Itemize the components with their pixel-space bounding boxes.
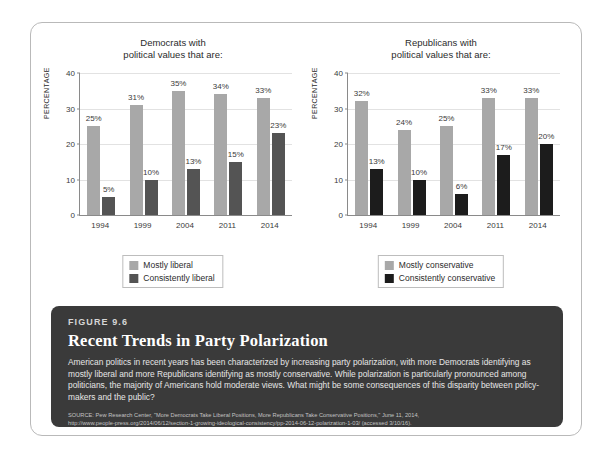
x-axis-tick-label: 2014 [252,221,288,230]
bar-value-label: 23% [270,121,286,130]
plot-wrap-democrats: PERCENTAGE 01020304025%5%31%10%35%13%34%… [41,69,305,249]
charts-area: Democrats with political values that are… [31,23,581,293]
bar-group: 34%15% [210,73,246,215]
x-axis-tick-label: 2014 [520,221,556,230]
x-axis-tick-label: 1999 [125,221,161,230]
bar: 10% [413,180,426,216]
legend-swatch-mostly-liberal [129,261,138,270]
x-axis-labels-republicans: 19941999200420112014 [347,221,559,230]
legend-swatch-mostly-conservative [385,261,394,270]
bar-group: 32%13% [351,73,387,215]
chart-panel-republicans: Republicans with political values that a… [309,33,573,293]
bar: 20% [540,144,553,215]
bar-value-label: 17% [496,143,512,152]
legend-item-consistently-liberal: Consistently liberal [129,273,214,283]
y-axis-tick-label: 10 [66,175,75,184]
chart-title-democrats: Democrats with political values that are… [73,33,273,61]
bar-value-label: 33% [523,86,539,95]
legend-democrats: Mostly liberal Consistently liberal [122,255,223,288]
bar-value-label: 31% [128,93,144,102]
y-axis-tick-label: 30 [66,104,75,113]
x-axis-tick-label: 2004 [167,221,203,230]
bar-group: 33%23% [253,73,289,215]
bar-value-label: 25% [438,114,454,123]
bar-value-label: 15% [228,150,244,159]
y-axis-tick-label: 20 [334,140,343,149]
legend-item-mostly-liberal: Mostly liberal [129,260,214,270]
bar-group: 24%10% [394,73,430,215]
legend-label-consistently-liberal: Consistently liberal [143,273,214,283]
x-axis-labels-democrats: 19941999200420112014 [79,221,291,230]
plot-wrap-republicans: PERCENTAGE 01020304032%13%24%10%25%6%33%… [309,69,573,249]
bar: 35% [172,91,185,215]
bar-group: 25%5% [83,73,119,215]
bar: 25% [87,126,100,215]
bar-value-label: 20% [538,132,554,141]
figure-caption-block: FIGURE 9.6 Recent Trends in Party Polari… [51,306,563,427]
bar-groups: 25%5%31%10%35%13%34%15%33%23% [80,73,292,215]
bar: 33% [257,98,270,215]
bar: 23% [272,133,285,215]
legend-item-consistently-conservative: Consistently conservative [385,273,495,283]
x-axis-tick-label: 2011 [477,221,513,230]
plot-area-democrats: 01020304025%5%31%10%35%13%34%15%33%23% [79,73,292,216]
legend-label-mostly-liberal: Mostly liberal [143,260,193,270]
bar: 15% [229,162,242,215]
x-axis-tick-label: 2011 [209,221,245,230]
bar-value-label: 5% [103,185,115,194]
chart-title-republicans: Republicans with political values that a… [341,33,541,61]
bar: 32% [355,101,368,215]
bar-groups: 32%13%24%10%25%6%33%17%33%20% [348,73,560,215]
x-axis-tick-label: 1994 [350,221,386,230]
bar-value-label: 10% [143,168,159,177]
y-axis-label-republicans: PERCENTAGE [311,67,318,119]
legend-item-mostly-conservative: Mostly conservative [385,260,495,270]
figure-title: Recent Trends in Party Polarization [68,331,546,351]
chart-title-line2: political values that are: [341,49,541,61]
bar-value-label: 13% [185,157,201,166]
bar-value-label: 24% [396,118,412,127]
bar: 34% [214,94,227,215]
bar: 33% [525,98,538,215]
bar-value-label: 13% [369,157,385,166]
y-axis-tick-label: 10 [334,175,343,184]
bar: 13% [187,169,200,215]
bar-group: 31%10% [126,73,162,215]
bar-group: 33%20% [521,73,557,215]
bar-value-label: 25% [86,114,102,123]
chart-title-line1: Republicans with [341,37,541,49]
y-axis-label-democrats: PERCENTAGE [43,67,50,119]
y-axis-tick-label: 40 [334,69,343,78]
chart-panel-democrats: Democrats with political values that are… [41,33,305,293]
bar-value-label: 6% [456,182,468,191]
figure-source-line-1: SOURCE: Pew Research Center, "More Democ… [68,411,546,419]
bar-value-label: 34% [213,82,229,91]
x-axis-tick-label: 1999 [393,221,429,230]
bar-value-label: 33% [481,86,497,95]
legend-swatch-consistently-liberal [129,274,138,283]
figure-source-line-2: http://www.people-press.org/2014/06/12/s… [68,419,546,427]
bar: 24% [398,130,411,215]
y-axis-tick-label: 20 [66,140,75,149]
y-axis-tick-label: 0 [339,211,343,220]
bar: 17% [497,155,510,215]
bar: 13% [370,169,383,215]
plot-area-republicans: 01020304032%13%24%10%25%6%33%17%33%20% [347,73,560,216]
bar: 25% [440,126,453,215]
bar-group: 35%13% [168,73,204,215]
y-axis-tick-label: 30 [334,104,343,113]
figure-card: Democrats with political values that are… [30,22,582,436]
bar-group: 33%17% [478,73,514,215]
bar: 10% [145,180,158,216]
figure-number: FIGURE 9.6 [68,317,546,327]
figure-body-text: American politics in recent years has be… [68,357,546,403]
legend-republicans: Mostly conservative Consistently conserv… [378,255,504,288]
y-axis-tick-label: 40 [66,69,75,78]
bar: 33% [482,98,495,215]
x-axis-tick-label: 1994 [82,221,118,230]
chart-title-line2: political values that are: [73,49,273,61]
legend-label-mostly-conservative: Mostly conservative [399,260,474,270]
bar: 31% [130,105,143,215]
y-axis-tick-label: 0 [71,211,75,220]
legend-label-consistently-conservative: Consistently conservative [399,273,495,283]
